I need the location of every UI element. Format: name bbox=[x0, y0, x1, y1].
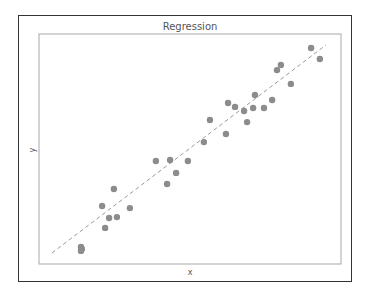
data-point bbox=[164, 181, 170, 187]
chart-title: Regression bbox=[163, 21, 218, 32]
data-point bbox=[127, 205, 133, 211]
data-point bbox=[102, 225, 108, 231]
data-point bbox=[114, 214, 120, 220]
plot-area bbox=[39, 34, 341, 264]
data-point bbox=[308, 45, 314, 51]
data-point bbox=[111, 186, 117, 192]
data-point bbox=[261, 105, 267, 111]
data-point bbox=[288, 81, 294, 87]
data-point bbox=[232, 104, 238, 110]
data-point bbox=[223, 131, 229, 137]
data-point bbox=[78, 248, 84, 254]
data-point bbox=[153, 158, 159, 164]
data-point bbox=[317, 56, 323, 62]
data-point bbox=[241, 108, 247, 114]
data-point bbox=[201, 139, 207, 145]
data-point bbox=[99, 203, 105, 209]
data-point bbox=[252, 92, 258, 98]
data-point bbox=[269, 97, 275, 103]
data-point bbox=[106, 215, 112, 221]
data-point bbox=[225, 100, 231, 106]
data-point bbox=[173, 170, 179, 176]
data-point bbox=[185, 158, 191, 164]
regression-chart: Regression x y bbox=[0, 0, 367, 296]
data-point bbox=[207, 117, 213, 123]
x-axis-label: x bbox=[188, 268, 193, 277]
y-axis-label: y bbox=[28, 147, 37, 152]
data-point bbox=[278, 62, 284, 68]
data-point bbox=[274, 67, 280, 73]
data-point bbox=[167, 157, 173, 163]
data-point bbox=[244, 119, 250, 125]
data-point bbox=[250, 105, 256, 111]
